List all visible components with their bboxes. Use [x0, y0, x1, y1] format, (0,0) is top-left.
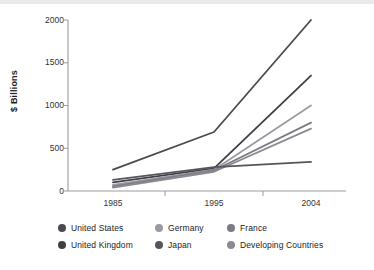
- legend-label-germany: Germany: [168, 223, 204, 233]
- legend-swatch-united-states: [58, 224, 66, 232]
- legend-swatch-japan: [155, 241, 163, 249]
- legend-swatch-germany: [155, 224, 163, 232]
- legend-swatch-france: [227, 224, 235, 232]
- x-tick-1995: 1995: [184, 198, 244, 208]
- legend-label-united-states: United States: [71, 223, 123, 233]
- legend-label-france: France: [240, 223, 267, 233]
- legend-swatch-developing-countries: [227, 241, 235, 249]
- legend-label-japan: Japan: [168, 240, 192, 250]
- legend-row-1: United States Germany France: [58, 219, 374, 236]
- series-lines: [113, 20, 311, 188]
- x-tick-2004: 2004: [281, 198, 341, 208]
- legend-item-germany[interactable]: Germany: [155, 223, 227, 233]
- y-axis-ticks: [63, 20, 68, 191]
- plot-area: [0, 0, 374, 215]
- series-line-united-states: [113, 20, 311, 170]
- series-line-germany: [113, 106, 311, 186]
- legend-swatch-united-kingdom: [58, 241, 66, 249]
- legend-item-united-kingdom[interactable]: United Kingdom: [58, 240, 155, 250]
- legend-item-developing-countries[interactable]: Developing Countries: [227, 240, 323, 250]
- chart-legend: United States Germany France United King…: [58, 219, 374, 253]
- legend-label-united-kingdom: United Kingdom: [71, 240, 133, 250]
- x-tick-1985: 1985: [83, 198, 143, 208]
- legend-item-japan[interactable]: Japan: [155, 240, 227, 250]
- legend-item-united-states[interactable]: United States: [58, 223, 155, 233]
- line-chart: $ Billions 2000 1500 1000 500 0 1985 199…: [0, 0, 374, 270]
- legend-item-france[interactable]: France: [227, 223, 267, 233]
- legend-row-2: United Kingdom Japan Developing Countrie…: [58, 236, 374, 253]
- legend-label-developing-countries: Developing Countries: [240, 240, 323, 250]
- x-axis-ticks: [165, 191, 263, 196]
